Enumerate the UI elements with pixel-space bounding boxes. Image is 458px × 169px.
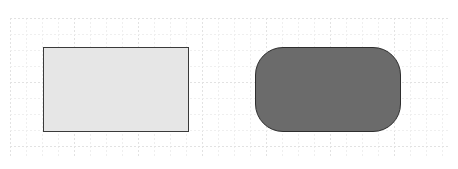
diagram-canvas[interactable] xyxy=(0,0,458,169)
rounded-rectangle-shape[interactable] xyxy=(255,47,401,132)
rectangle-shape[interactable] xyxy=(43,47,189,132)
